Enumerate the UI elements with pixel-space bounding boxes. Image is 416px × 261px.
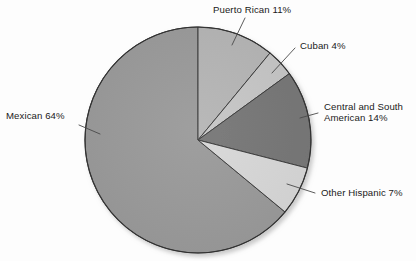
- callout-label-puerto-rican: Puerto Rican 11%: [213, 4, 291, 16]
- pie-slices-group: [85, 27, 311, 253]
- callout-label-cuban: Cuban 4%: [300, 40, 346, 52]
- pie-outline: [85, 27, 311, 253]
- callout-label-central-and-south-american-line2: American 14%: [324, 112, 388, 124]
- pie-chart-svg: [0, 0, 416, 261]
- callout-label-mexican: Mexican 64%: [6, 110, 65, 122]
- pie-chart-figure: Puerto Rican 11% Cuban 4% Central and So…: [0, 0, 416, 261]
- callout-label-other-hispanic: Other Hispanic 7%: [321, 187, 403, 199]
- callout-label-central-and-south-american-line1: Central and South: [324, 101, 403, 113]
